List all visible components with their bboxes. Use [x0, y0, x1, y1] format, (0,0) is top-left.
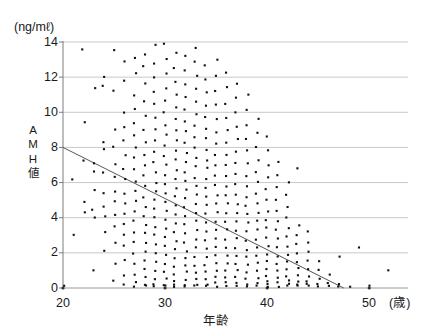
data-point	[306, 283, 308, 285]
data-point	[195, 165, 197, 167]
data-point	[235, 151, 237, 153]
data-point	[316, 283, 318, 285]
data-point	[265, 275, 267, 277]
data-point	[173, 280, 175, 282]
data-point	[81, 48, 83, 50]
data-point	[225, 185, 227, 187]
data-point	[173, 286, 175, 288]
data-point	[153, 285, 155, 287]
data-point	[224, 239, 226, 241]
data-point	[256, 228, 258, 230]
data-point	[327, 282, 329, 284]
data-point	[257, 277, 259, 279]
data-point	[113, 49, 115, 51]
data-point	[206, 167, 208, 169]
data-point	[123, 60, 125, 62]
data-point	[164, 124, 166, 126]
data-point	[114, 263, 116, 265]
data-point	[102, 171, 104, 173]
data-point	[196, 193, 198, 195]
data-point	[82, 160, 84, 162]
x-tick-label: 20	[43, 297, 83, 310]
data-point	[275, 199, 277, 201]
data-point	[194, 147, 196, 149]
data-point	[337, 285, 339, 287]
data-point	[258, 159, 260, 161]
data-point	[114, 225, 116, 227]
data-point	[245, 240, 247, 242]
data-point	[266, 280, 268, 282]
data-point	[205, 270, 207, 272]
data-point	[103, 206, 105, 208]
data-point	[84, 121, 86, 123]
data-point	[265, 199, 267, 201]
data-point	[276, 174, 278, 176]
data-point	[173, 67, 175, 69]
data-point	[135, 200, 137, 202]
data-point	[184, 264, 186, 266]
data-point	[195, 185, 197, 187]
data-point	[236, 83, 238, 85]
data-point	[124, 259, 126, 261]
data-point	[276, 246, 278, 248]
data-point	[143, 268, 145, 270]
data-point	[163, 155, 165, 157]
data-point	[183, 206, 185, 208]
data-point	[164, 245, 166, 247]
data-point	[318, 269, 320, 271]
data-point	[102, 85, 104, 87]
data-point	[103, 192, 105, 194]
data-point	[175, 129, 177, 131]
data-point	[94, 216, 96, 218]
data-point	[215, 143, 217, 145]
data-point	[145, 276, 147, 278]
data-point	[235, 97, 237, 99]
data-point	[164, 100, 166, 102]
data-point	[153, 216, 155, 218]
data-point	[235, 255, 237, 257]
data-point	[236, 126, 238, 128]
data-point	[267, 286, 269, 288]
data-point	[104, 215, 106, 217]
data-point	[214, 281, 216, 283]
data-point	[142, 196, 144, 198]
data-point	[227, 202, 229, 204]
data-point	[145, 206, 147, 208]
data-point	[265, 268, 267, 270]
data-point	[175, 213, 177, 215]
data-point	[246, 109, 248, 111]
data-point	[225, 247, 227, 249]
data-point	[145, 251, 147, 253]
data-point	[195, 157, 197, 159]
data-point	[295, 243, 297, 245]
data-point	[133, 156, 135, 158]
data-point	[143, 100, 145, 102]
data-point	[255, 255, 257, 257]
data-point	[164, 236, 166, 238]
data-point	[196, 229, 198, 231]
data-point	[145, 224, 147, 226]
data-point	[114, 214, 116, 216]
data-point	[307, 242, 309, 244]
data-point	[153, 91, 155, 93]
data-point	[235, 194, 237, 196]
data-point	[153, 63, 155, 65]
data-point	[195, 238, 197, 240]
data-point	[255, 146, 257, 148]
data-point	[114, 128, 116, 130]
data-point	[195, 203, 197, 205]
data-point	[193, 284, 195, 286]
data-point	[215, 131, 217, 133]
data-point	[194, 61, 196, 63]
data-point	[142, 174, 144, 176]
data-point	[124, 178, 126, 180]
data-point	[193, 256, 195, 258]
data-point	[296, 261, 298, 263]
data-point	[135, 281, 137, 283]
data-point	[265, 219, 267, 221]
data-point	[196, 284, 198, 286]
data-point	[224, 103, 226, 105]
data-point	[206, 256, 208, 258]
data-point	[266, 260, 268, 262]
data-point	[226, 228, 228, 230]
